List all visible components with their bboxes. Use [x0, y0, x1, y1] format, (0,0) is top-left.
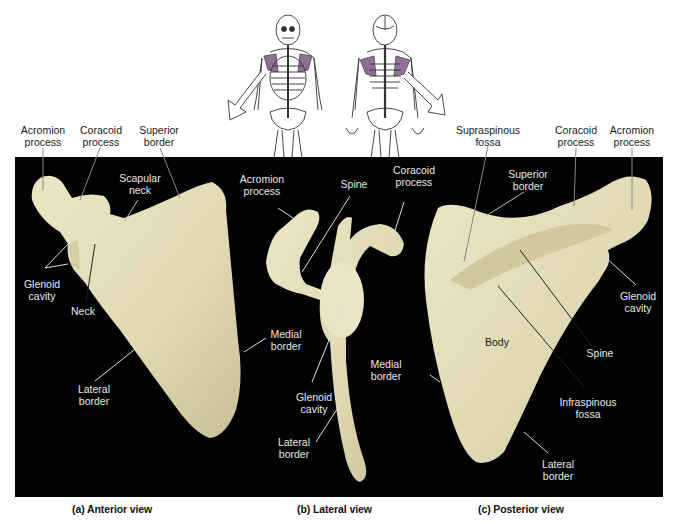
caption-anterior-view: (a) Anterior view	[72, 503, 152, 515]
label-posterior-glenoid-cavity: Glenoid cavity	[616, 290, 660, 314]
label-posterior-medial-border: Medial border	[364, 358, 408, 382]
label-anterior-neck: Neck	[68, 305, 98, 317]
label-posterior-lateral-border: Lateral border	[538, 458, 578, 482]
label-posterior-spine: Spine	[584, 347, 616, 359]
scapula-figure: Acromion process Coracoid process Superi…	[0, 0, 678, 523]
label-posterior-coracoid-process: Coracoid process	[552, 124, 600, 148]
label-anterior-acromion-process: Acromion process	[20, 124, 66, 148]
label-lateral-spine: Spine	[338, 178, 370, 190]
caption-lateral-view: (b) Lateral view	[297, 503, 372, 515]
caption-posterior-view: (c) Posterior view	[478, 503, 564, 515]
label-posterior-superior-border: Superior border	[506, 168, 550, 192]
anterior-scapula	[32, 176, 241, 438]
label-lateral-lateral-border: Lateral border	[274, 436, 314, 460]
label-anterior-glenoid-cavity: Glenoid cavity	[20, 278, 64, 302]
label-posterior-infraspinous-fossa: Infraspinous fossa	[556, 396, 620, 420]
label-anterior-coracoid-process: Coracoid process	[78, 124, 124, 148]
bone-illustrations	[0, 0, 678, 523]
label-lateral-glenoid-cavity: Glenoid cavity	[292, 391, 336, 415]
label-posterior-body: Body	[482, 336, 512, 348]
label-anterior-superior-border: Superior border	[136, 124, 182, 148]
label-anterior-scapular-neck: Scapular neck	[118, 172, 162, 196]
label-anterior-lateral-border: Lateral border	[74, 383, 114, 407]
label-lateral-coracoid-process: Coracoid process	[390, 164, 438, 188]
label-lateral-acromion-process: Acromion process	[236, 173, 288, 197]
label-posterior-supraspinous-fossa: Supraspinous fossa	[452, 124, 524, 148]
label-posterior-acromion-process: Acromion process	[606, 124, 658, 148]
label-anterior-medial-border: Medial border	[266, 328, 306, 352]
